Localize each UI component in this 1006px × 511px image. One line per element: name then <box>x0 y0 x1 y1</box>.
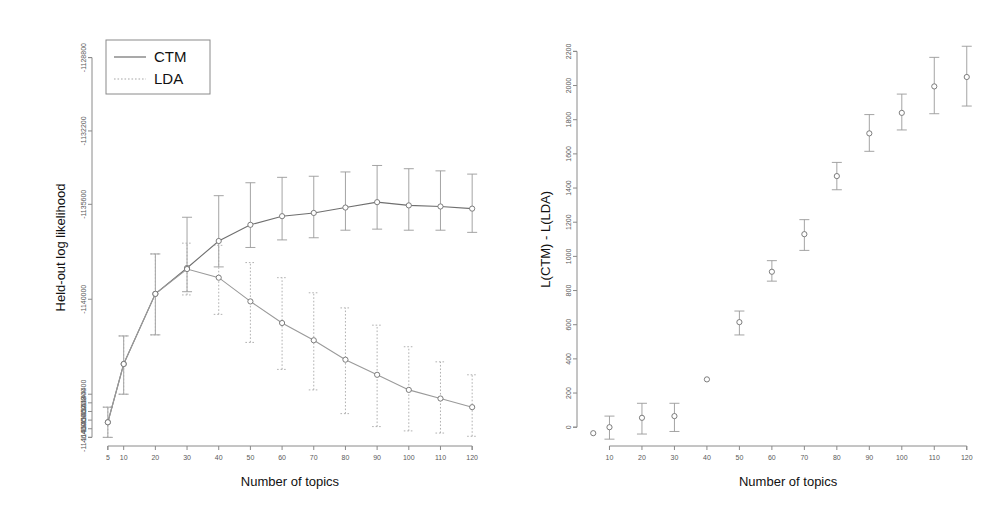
x-axis-line <box>108 446 472 450</box>
y-axis-title: Held-out log likelihood <box>53 184 68 312</box>
data-point-marker <box>438 396 443 401</box>
data-point-marker <box>932 84 937 89</box>
y-axis-tick-label: 0 <box>565 425 572 429</box>
data-point-marker <box>311 210 316 215</box>
data-point-marker <box>867 131 872 136</box>
x-axis-tick-label: 80 <box>833 454 841 461</box>
legend-label-ctm: CTM <box>154 48 187 65</box>
x-axis-tick-label: 10 <box>606 454 614 461</box>
data-point-marker <box>704 377 709 382</box>
x-axis-tick-label: 60 <box>278 454 286 461</box>
y-axis-tick-label: -1135600 <box>80 190 87 219</box>
x-axis-tick-label: 110 <box>435 454 446 461</box>
y-axis-tick-label: 600 <box>565 319 572 331</box>
x-axis-title: Number of topics <box>241 474 340 489</box>
y-axis-tick-label: 1600 <box>565 146 572 162</box>
data-point-marker <box>216 275 221 280</box>
x-axis-tick-label: 80 <box>342 454 350 461</box>
y-axis-tick-label: -1140000 <box>80 285 87 314</box>
data-point-marker <box>279 320 284 325</box>
data-point-marker <box>802 232 807 237</box>
y-axis-tick-label: 800 <box>565 285 572 297</box>
x-axis-tick-label: 10 <box>120 454 128 461</box>
x-axis-tick-label: 120 <box>961 454 973 461</box>
data-point-marker <box>470 206 475 211</box>
data-point-marker <box>153 291 158 296</box>
panel-left-heldout-likelihood: -1128800-1132200-1135600-1140000-1144400… <box>0 0 503 511</box>
x-axis-tick-label: 50 <box>736 454 744 461</box>
x-axis-tick-label: 60 <box>768 454 776 461</box>
data-point-marker <box>343 205 348 210</box>
x-axis-tick-label: 120 <box>466 454 478 461</box>
y-axis-tick-label: -1146400 <box>80 423 87 452</box>
x-axis-tick-label: 30 <box>183 454 191 461</box>
x-axis-tick-label: 70 <box>800 454 808 461</box>
y-axis-tick-label: 1800 <box>565 112 572 128</box>
x-axis-tick-label: 20 <box>638 454 646 461</box>
series-line-lda <box>108 269 472 422</box>
data-point-marker <box>375 372 380 377</box>
left-chart-svg: -1128800-1132200-1135600-1140000-1144400… <box>0 0 503 511</box>
x-axis-tick-label: 40 <box>703 454 711 461</box>
data-point-marker <box>639 415 644 420</box>
data-point-marker <box>121 361 126 366</box>
data-point-marker <box>834 173 839 178</box>
data-point-marker <box>248 299 253 304</box>
data-point-marker <box>964 74 969 79</box>
y-axis-tick-label: 1400 <box>565 180 572 196</box>
data-point-marker <box>105 420 110 425</box>
data-point-marker <box>375 200 380 205</box>
data-point-marker <box>438 204 443 209</box>
x-axis-tick-label: 40 <box>215 454 223 461</box>
data-point-marker <box>607 425 612 430</box>
y-axis-tick-label: -1132200 <box>80 116 87 145</box>
x-axis-tick-label: 90 <box>865 454 873 461</box>
x-axis-tick-label: 100 <box>403 454 415 461</box>
x-axis-tick-label: 100 <box>896 454 908 461</box>
data-point-marker <box>279 214 284 219</box>
data-point-marker <box>184 266 189 271</box>
data-point-marker <box>248 222 253 227</box>
x-axis-tick-label: 20 <box>151 454 159 461</box>
x-axis-tick-label: 90 <box>373 454 381 461</box>
y-axis-tick-label: 1200 <box>565 214 572 230</box>
y-axis-line <box>573 51 577 427</box>
x-axis-tick-label: 50 <box>247 454 255 461</box>
data-point-marker <box>311 338 316 343</box>
x-axis-tick-label: 70 <box>310 454 318 461</box>
data-point-marker <box>470 405 475 410</box>
figure-container: -1128800-1132200-1135600-1140000-1144400… <box>0 0 1006 511</box>
data-point-marker <box>672 414 677 419</box>
y-axis-line <box>88 58 92 438</box>
data-point-marker <box>899 110 904 115</box>
y-axis-tick-label: 200 <box>565 387 572 399</box>
data-point-marker <box>737 320 742 325</box>
x-axis-line <box>609 446 966 450</box>
x-axis-tick-label: 30 <box>671 454 679 461</box>
data-point-marker <box>591 431 596 436</box>
data-point-marker <box>216 238 221 243</box>
x-axis-tick-label: 5 <box>106 454 110 461</box>
x-axis-title: Number of topics <box>739 474 838 489</box>
y-axis-title: L(CTM) - L(LDA) <box>538 191 553 288</box>
y-axis-tick-label: 400 <box>565 353 572 365</box>
legend-label-lda: LDA <box>154 70 183 87</box>
panel-right-likelihood-difference: 0200400600800100012001400160018002000220… <box>503 0 1006 511</box>
y-axis-tick-label: -1128800 <box>80 43 87 72</box>
data-point-marker <box>343 357 348 362</box>
y-axis-tick-label: 2000 <box>565 78 572 94</box>
data-point-marker <box>406 203 411 208</box>
x-axis-tick-label: 110 <box>929 454 940 461</box>
data-point-marker <box>406 387 411 392</box>
data-point-marker <box>769 269 774 274</box>
series-line-ctm <box>108 202 472 422</box>
y-axis-tick-label: 2200 <box>565 43 572 59</box>
right-chart-svg: 0200400600800100012001400160018002000220… <box>503 0 1006 511</box>
y-axis-tick-label: 1000 <box>565 248 572 264</box>
